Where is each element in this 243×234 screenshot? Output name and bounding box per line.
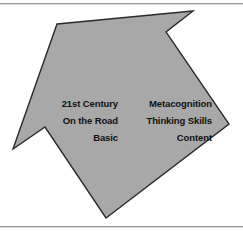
- bottom-divider-rule-shadow: [0, 227, 243, 228]
- left-label-line-3: Basic: [36, 129, 118, 146]
- left-label-line-1: 21st Century: [36, 95, 118, 112]
- left-label-line-2: On the Road: [36, 112, 118, 129]
- right-label-line-1: Metacognition: [126, 95, 212, 112]
- left-label-group: 21st Century On the Road Basic: [36, 95, 118, 146]
- right-label-group: Metacognition Thinking Skills Content: [126, 95, 212, 146]
- right-label-line-3: Content: [126, 129, 212, 146]
- right-label-line-2: Thinking Skills: [126, 112, 212, 129]
- figure-canvas: 21st Century On the Road Basic Metacogni…: [0, 0, 243, 234]
